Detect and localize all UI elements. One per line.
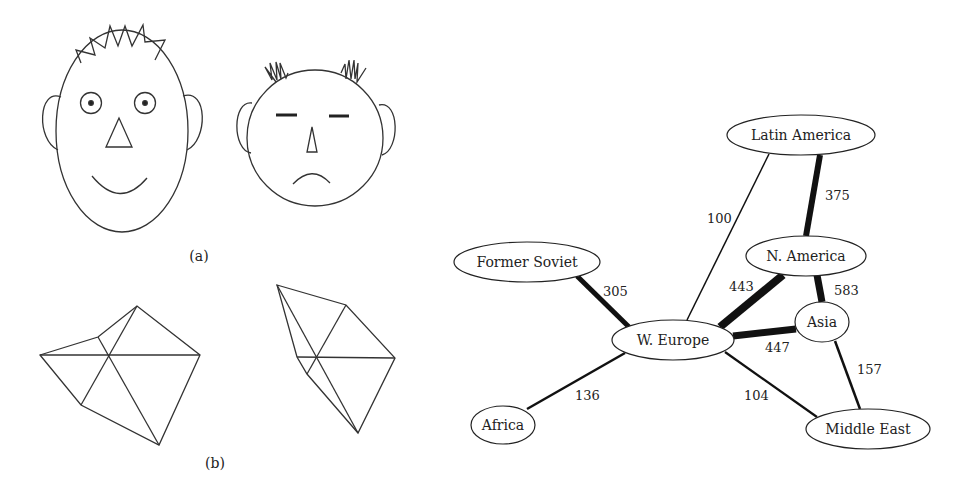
edge-label-100: 100	[707, 211, 732, 226]
edge-label-583: 583	[834, 283, 859, 298]
trade-network: 375 100 305 443 583 447 157 104 136 Lati…	[454, 115, 930, 449]
nose-icon	[307, 127, 317, 152]
edge-label-305: 305	[603, 284, 628, 299]
node-n-america: N. America	[746, 236, 866, 276]
edge-label-104: 104	[744, 388, 769, 403]
svg-text:N. America: N. America	[766, 248, 845, 264]
svg-text:Middle East: Middle East	[825, 421, 911, 437]
edge-label-375: 375	[825, 188, 850, 203]
edge-label-157: 157	[857, 362, 882, 377]
node-former-soviet: Former Soviet	[454, 242, 600, 282]
right-hair-tuft-icon	[341, 60, 366, 82]
smile-icon	[92, 176, 147, 194]
left-ear-icon	[237, 103, 252, 153]
edge-n-america-asia	[817, 275, 822, 302]
right-ear-icon	[379, 105, 395, 155]
happy-face	[43, 25, 203, 232]
head-outline	[247, 70, 383, 206]
svg-text:Latin America: Latin America	[751, 127, 851, 143]
edge-w-europe-middle-east	[725, 352, 817, 417]
polygon-shape-2	[277, 285, 395, 433]
head-outline	[56, 30, 188, 232]
figure-canvas: (a) (b) 375	[0, 0, 956, 490]
edge-label-443: 443	[729, 279, 754, 294]
node-middle-east: Middle East	[806, 409, 930, 449]
left-hair-tuft-icon	[265, 62, 288, 82]
edge-label-447: 447	[765, 340, 790, 355]
edges	[527, 154, 860, 417]
polygon-shape-1	[40, 306, 200, 445]
caption-a: (a)	[189, 248, 208, 264]
nose-icon	[106, 118, 132, 147]
svg-text:Former Soviet: Former Soviet	[476, 254, 577, 270]
frown-icon	[293, 174, 330, 184]
svg-text:Africa: Africa	[481, 417, 524, 433]
nodes: Latin America N. America Former Soviet A…	[454, 115, 930, 449]
edge-w-europe-asia	[733, 329, 796, 336]
node-asia: Asia	[795, 302, 849, 342]
node-w-europe: W. Europe	[612, 320, 734, 360]
panel-b: (b)	[40, 285, 395, 471]
node-africa: Africa	[471, 406, 535, 444]
svg-text:W. Europe: W. Europe	[637, 332, 709, 348]
sad-face	[237, 60, 395, 206]
edge-latin-america-n-america	[806, 155, 820, 236]
caption-b: (b)	[205, 455, 225, 471]
node-latin-america: Latin America	[727, 115, 875, 155]
edge-labels: 375 100 305 443 583 447 157 104 136	[575, 188, 882, 403]
edge-label-136: 136	[575, 388, 600, 403]
panel-a: (a)	[43, 25, 396, 264]
svg-text:Asia: Asia	[806, 314, 837, 330]
